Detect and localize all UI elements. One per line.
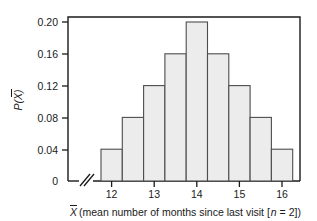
y-tick-label: 0.16	[38, 48, 59, 60]
bar	[229, 86, 250, 181]
y-tick-label-zero: 0	[52, 175, 58, 187]
y-tick-label: 0.04	[38, 144, 59, 156]
axis-break-icon	[80, 174, 94, 186]
y-tick-label: 0.08	[38, 112, 59, 124]
x-axis-title-rest: (mean number of months since last visit …	[79, 206, 270, 218]
x-axis-title-xbar: X	[69, 206, 78, 218]
x-tick-label: 16	[276, 188, 288, 200]
bar	[271, 149, 292, 181]
y-axis-title: P(X)	[12, 89, 25, 111]
histogram-bars	[101, 22, 293, 181]
svg-text:P(X): P(X)	[12, 90, 24, 111]
x-axis-title-eq: = 2])	[277, 206, 301, 218]
y-axis-tick-labels: 0.20 0.16 0.12 0.08 0.04 0	[38, 16, 59, 187]
y-axis-ticks	[62, 22, 68, 150]
bar	[165, 54, 186, 181]
bar	[122, 117, 143, 181]
x-axis-tick-labels: 12 13 14 15 16	[106, 188, 288, 200]
bar	[250, 117, 271, 181]
x-axis-title: X(mean number of months since last visit…	[69, 206, 301, 219]
bar	[101, 149, 122, 181]
histogram-figure: 0.20 0.16 0.12 0.08 0.04 0 P(X)	[0, 0, 317, 221]
bar	[186, 22, 207, 181]
y-axis-title-p: P(X)	[12, 90, 24, 111]
x-tick-label: 15	[234, 188, 246, 200]
chart-svg: 0.20 0.16 0.12 0.08 0.04 0 P(X)	[0, 0, 317, 221]
svg-text:X(mean number of months since: X(mean number of months since last visit…	[69, 206, 301, 218]
y-tick-label: 0.20	[38, 16, 59, 28]
x-tick-label: 14	[191, 188, 203, 200]
x-tick-label: 12	[106, 188, 118, 200]
bar	[144, 86, 165, 181]
y-tick-label: 0.12	[38, 80, 59, 92]
x-axis-ticks	[112, 181, 282, 187]
x-tick-label: 13	[148, 188, 160, 200]
bar	[208, 54, 229, 181]
